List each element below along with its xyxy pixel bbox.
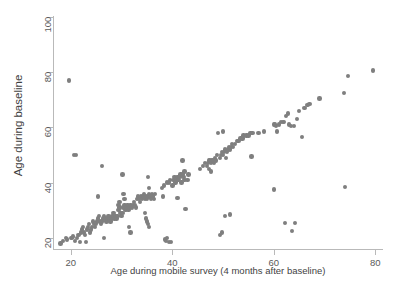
scatter-plot-figure: Age during baseline 20406080100 20406080… [0, 0, 397, 299]
scatter-point [67, 78, 71, 82]
scatter-point [186, 172, 190, 176]
x-tick-mark [375, 250, 376, 255]
scatter-point [371, 68, 375, 72]
scatter-point [152, 197, 156, 201]
scatter-point [300, 135, 304, 139]
scatter-point [343, 185, 347, 189]
scatter-point [143, 211, 147, 215]
scatter-point [221, 129, 225, 133]
scatter-point [117, 200, 121, 204]
scatter-point [317, 96, 321, 100]
scatter-point [100, 164, 104, 168]
y-tick-label: 40 [43, 182, 53, 193]
y-tick-label: 60 [43, 127, 53, 138]
scatter-point [169, 240, 173, 244]
scatter-point [147, 186, 151, 190]
scatter-point [346, 74, 350, 78]
scatter-point [295, 117, 299, 121]
scatter-point [307, 102, 311, 106]
scatter-point [74, 153, 78, 157]
scatter-point [183, 207, 187, 211]
scatter-point [283, 221, 287, 225]
x-tick-mark [172, 250, 173, 255]
scatter-point [275, 129, 279, 133]
scatter-point [161, 194, 165, 198]
scatter-point [282, 120, 286, 124]
scatter-point [134, 205, 138, 209]
scatter-point [223, 214, 227, 218]
scatter-point [216, 131, 220, 135]
scatter-point [83, 233, 87, 237]
y-axis-line [53, 16, 54, 250]
scatter-point [342, 91, 346, 95]
scatter-point [78, 240, 82, 244]
scatter-point [147, 225, 151, 229]
scatter-point [250, 131, 254, 135]
y-tick-label: 100 [43, 17, 53, 33]
x-tick-mark [71, 250, 72, 255]
y-tick-label: 20 [43, 238, 53, 249]
scatter-point [228, 212, 232, 216]
scatter-point [180, 158, 184, 162]
scatter-point [272, 187, 276, 191]
plot-area: 20406080100 20406080 [53, 14, 383, 249]
scatter-point [121, 192, 125, 196]
x-tick-mark [274, 250, 275, 255]
scatter-point [297, 109, 301, 113]
scatter-point [122, 197, 126, 201]
x-axis-title: Age during mobile survey (4 months after… [53, 265, 383, 276]
scatter-point [128, 230, 132, 234]
x-axis-line [53, 249, 383, 250]
scatter-point [256, 131, 260, 135]
scatter-point [102, 236, 106, 240]
scatter-point [249, 154, 253, 158]
scatter-point [185, 178, 189, 182]
scatter-point [175, 196, 179, 200]
scatter-point [84, 240, 88, 244]
scatter-point [286, 111, 290, 115]
scatter-point [120, 172, 124, 176]
scatter-point [293, 221, 297, 225]
scatter-point [153, 192, 157, 196]
scatter-point [292, 124, 296, 128]
scatter-point [224, 156, 228, 160]
scatter-point [290, 229, 294, 233]
scatter-point [127, 225, 131, 229]
scatter-point [262, 129, 266, 133]
y-tick-label: 80 [43, 72, 53, 83]
scatter-point [220, 230, 224, 234]
scatter-point [209, 169, 213, 173]
figure-caption-cropped [4, 288, 397, 299]
y-axis-title: Age during baseline [9, 4, 27, 247]
scatter-point [96, 194, 100, 198]
scatter-point [146, 175, 150, 179]
